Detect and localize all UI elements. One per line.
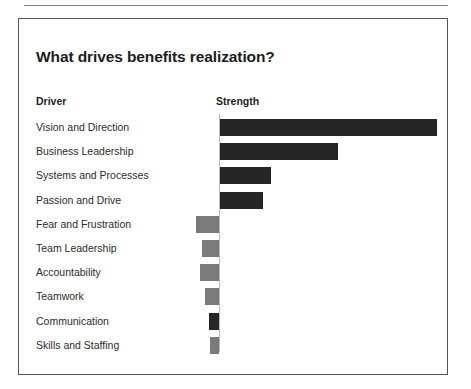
bar bbox=[220, 167, 271, 184]
bar bbox=[209, 313, 219, 330]
chart-page: What drives benefits realization? Driver… bbox=[0, 0, 471, 389]
bar bbox=[220, 192, 263, 209]
bar bbox=[200, 264, 219, 281]
bar bbox=[220, 119, 437, 136]
category-label: Skills and Staffing bbox=[36, 339, 119, 351]
bar-chart-plot: Vision and DirectionBusiness LeadershipS… bbox=[0, 0, 471, 389]
category-label: Systems and Processes bbox=[36, 169, 149, 181]
bar bbox=[196, 216, 219, 233]
category-label: Accountability bbox=[36, 266, 101, 278]
bar bbox=[220, 143, 338, 160]
bar bbox=[202, 240, 219, 257]
category-label: Passion and Drive bbox=[36, 194, 121, 206]
category-label: Team Leadership bbox=[36, 242, 117, 254]
category-label: Communication bbox=[36, 315, 109, 327]
bar bbox=[210, 337, 219, 354]
category-label: Vision and Direction bbox=[36, 121, 129, 133]
category-label: Business Leadership bbox=[36, 145, 133, 157]
category-label: Teamwork bbox=[36, 290, 84, 302]
category-label: Fear and Frustration bbox=[36, 218, 131, 230]
bar bbox=[205, 288, 219, 305]
